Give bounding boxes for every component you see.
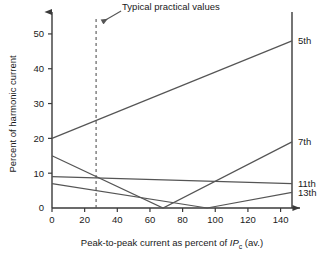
x-axis-title: Peak-to-peak current as percent of IPc (… bbox=[81, 237, 263, 250]
x-tick-label: 60 bbox=[145, 214, 156, 225]
y-tick-label: 30 bbox=[33, 98, 44, 109]
harmonic-current-chart: 01020304050020406080100120140Percent of … bbox=[0, 0, 333, 268]
y-tick-label: 20 bbox=[33, 133, 44, 144]
series-line-13th bbox=[52, 184, 292, 208]
x-tick-label: 120 bbox=[240, 214, 256, 225]
chart-svg: 01020304050020406080100120140Percent of … bbox=[0, 0, 333, 268]
y-tick-label: 40 bbox=[33, 63, 44, 74]
y-axis-title: Percent of harmonic current bbox=[7, 55, 18, 173]
x-tick-label: 0 bbox=[49, 214, 54, 225]
axes-layer bbox=[48, 12, 300, 212]
annotation-label: Typical practical values bbox=[122, 1, 220, 12]
x-tick-label: 40 bbox=[112, 214, 123, 225]
series-line-11th bbox=[52, 177, 292, 184]
x-tick-label: 100 bbox=[207, 214, 223, 225]
y-tick-label: 10 bbox=[33, 168, 44, 179]
series-line-5th bbox=[52, 41, 292, 138]
y-tick-label: 0 bbox=[39, 202, 44, 213]
x-tick-label: 20 bbox=[79, 214, 90, 225]
annotation-arrow bbox=[102, 11, 121, 22]
labels-layer: 01020304050020406080100120140Percent of … bbox=[7, 1, 317, 250]
series-layer bbox=[52, 41, 292, 208]
series-label-13th: 13th bbox=[298, 187, 317, 198]
series-label-7th: 7th bbox=[298, 136, 311, 147]
x-tick-label: 140 bbox=[273, 214, 289, 225]
series-label-5th: 5th bbox=[298, 35, 311, 46]
x-tick-label: 80 bbox=[177, 214, 188, 225]
y-tick-label: 50 bbox=[33, 28, 44, 39]
series-line-7th bbox=[52, 142, 292, 208]
